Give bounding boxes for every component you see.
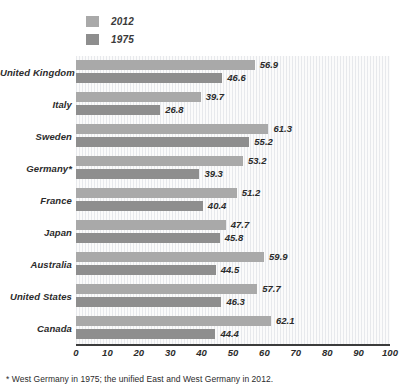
- x-tick-label: 50: [218, 347, 248, 358]
- bar-value-label: 46.3: [226, 297, 245, 307]
- bar-2012: [76, 92, 201, 102]
- bar-1975: [76, 105, 160, 115]
- category-label: United States: [0, 291, 72, 302]
- bar-value-label: 47.7: [231, 220, 250, 230]
- bar-2012: [76, 156, 243, 166]
- plot-area: 56.946.639.726.861.355.253.239.351.240.4…: [76, 56, 390, 344]
- legend-label: 2012: [111, 16, 134, 27]
- bar-group: 51.240.4: [76, 188, 390, 212]
- bar-value-label: 44.4: [220, 329, 239, 339]
- bar-2012: [76, 188, 237, 198]
- bar-value-label: 62.1: [276, 316, 295, 326]
- bar-group: 56.946.6: [76, 60, 390, 84]
- legend-swatch-icon: [86, 16, 99, 27]
- bar-value-label: 59.9: [269, 252, 288, 262]
- x-tick-label: 40: [187, 347, 217, 358]
- bar-1975: [76, 265, 216, 275]
- bar-group: 61.355.2: [76, 124, 390, 148]
- bar-1975: [76, 233, 220, 243]
- category-label: Canada: [0, 323, 72, 334]
- legend-swatch-icon: [86, 34, 99, 45]
- x-tick-label: 90: [344, 347, 374, 358]
- bar-1975: [76, 73, 222, 83]
- bar-value-label: 26.8: [165, 105, 184, 115]
- bar-group: 57.746.3: [76, 284, 390, 308]
- bar-group: 53.239.3: [76, 156, 390, 180]
- bar-value-label: 40.4: [208, 201, 227, 211]
- bar-2012: [76, 60, 255, 70]
- bar-value-label: 61.3: [273, 124, 292, 134]
- category-label: Japan: [0, 227, 72, 238]
- category-label: Australia: [0, 259, 72, 270]
- bar-group: 47.745.8: [76, 220, 390, 244]
- category-label: Italy: [0, 99, 72, 110]
- bar-value-label: 39.7: [206, 92, 225, 102]
- category-axis: United KingdomItalySwedenGermany*FranceJ…: [0, 56, 76, 344]
- legend-item-1975: 1975: [86, 32, 246, 47]
- legend-item-2012: 2012: [86, 14, 246, 29]
- bar-2012: [76, 220, 226, 230]
- bar-value-label: 51.2: [242, 188, 261, 198]
- bar-value-label: 55.2: [254, 137, 273, 147]
- bar-1975: [76, 329, 215, 339]
- category-label: Germany*: [0, 163, 72, 174]
- bar-1975: [76, 169, 199, 179]
- category-label: France: [0, 195, 72, 206]
- bar-value-label: 57.7: [262, 284, 281, 294]
- bar-1975: [76, 137, 249, 147]
- bar-2012: [76, 252, 264, 262]
- x-tick-label: 60: [249, 347, 279, 358]
- x-tick-label: 30: [155, 347, 185, 358]
- bar-group: 62.144.4: [76, 316, 390, 340]
- bar-value-label: 56.9: [260, 60, 279, 70]
- chart-legend: 20121975: [86, 14, 246, 50]
- bar-value-label: 44.5: [221, 265, 240, 275]
- x-tick-label: 20: [124, 347, 154, 358]
- x-tick-label: 80: [312, 347, 342, 358]
- x-tick-label: 100: [375, 347, 405, 358]
- x-axis-line: [76, 344, 390, 346]
- bar-value-label: 46.6: [227, 73, 246, 83]
- bar-2012: [76, 316, 271, 326]
- x-axis-ticks: 0102030405060708090100: [0, 347, 417, 363]
- bar-group: 39.726.8: [76, 92, 390, 116]
- x-tick-label: 70: [281, 347, 311, 358]
- bar-1975: [76, 201, 203, 211]
- bar-2012: [76, 284, 257, 294]
- bar-2012: [76, 124, 268, 134]
- x-tick-label: 10: [92, 347, 122, 358]
- bar-value-label: 39.3: [204, 169, 223, 179]
- category-label: Sweden: [0, 131, 72, 142]
- category-label: United Kingdom: [0, 67, 72, 78]
- x-tick-label: 0: [61, 347, 91, 358]
- bar-group: 59.944.5: [76, 252, 390, 276]
- legend-label: 1975: [111, 34, 134, 45]
- footnote: * West Germany in 1975; the unified East…: [6, 374, 273, 384]
- bar-chart: United KingdomItalySwedenGermany*FranceJ…: [0, 56, 417, 356]
- bar-value-label: 45.8: [225, 233, 244, 243]
- bar-1975: [76, 297, 221, 307]
- bar-value-label: 53.2: [248, 156, 267, 166]
